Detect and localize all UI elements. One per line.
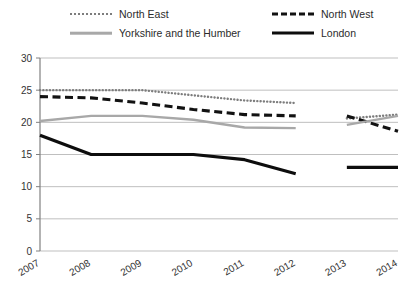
y-axis-tick-label: 15 xyxy=(21,149,33,160)
y-axis-tick-label: 5 xyxy=(26,213,32,224)
x-axis-tick-labels: 20072008200920102011201220132014 xyxy=(16,257,399,278)
series-line-north-west xyxy=(40,97,296,116)
data-series-layer xyxy=(40,90,398,174)
x-axis-tick-label: 2014 xyxy=(374,257,399,278)
x-axis-tick-label: 2009 xyxy=(119,257,144,278)
x-axis-tick-label: 2008 xyxy=(67,257,92,278)
plot-area: 051015202530 200720082009201020112012201… xyxy=(0,0,411,304)
line-chart: North East North West Yorkshire and the … xyxy=(0,0,411,304)
x-axis-tick-label: 2007 xyxy=(16,257,41,278)
y-axis-tick-labels: 051015202530 xyxy=(21,53,33,257)
x-axis-tick-label: 2012 xyxy=(272,257,297,278)
plot-svg: 051015202530 200720082009201020112012201… xyxy=(0,0,411,304)
y-axis-tick-label: 0 xyxy=(26,246,32,257)
x-axis-tick-label: 2013 xyxy=(323,257,348,278)
x-axis-tick-label: 2011 xyxy=(221,257,246,277)
x-axis-tick-label: 2010 xyxy=(170,257,195,278)
y-axis-tick-label: 30 xyxy=(21,53,33,64)
y-axis-tick-label: 20 xyxy=(21,117,33,128)
y-axis-tick-label: 25 xyxy=(21,85,33,96)
y-axis-tick-label: 10 xyxy=(21,181,33,192)
